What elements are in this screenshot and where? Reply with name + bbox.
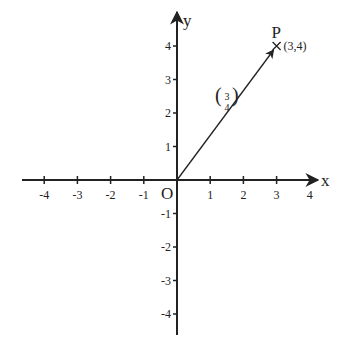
x-tick-label: -2	[106, 188, 116, 202]
vector-line	[177, 50, 274, 180]
x-tick-label: 4	[307, 188, 313, 202]
y-axis-label: y	[183, 11, 192, 30]
column-vector-label: (34)	[215, 84, 239, 113]
x-tick-label: -4	[39, 188, 49, 202]
x-tick-label: 1	[207, 188, 213, 202]
y-tick-label: -2	[161, 240, 171, 254]
x-axis-label: x	[321, 171, 330, 190]
point-p: P(3,4)	[272, 23, 307, 53]
y-tick-label: -3	[161, 274, 171, 288]
origin-label: O	[161, 184, 173, 203]
cross-marker-icon	[273, 42, 281, 50]
y-tick-label: -4	[161, 307, 171, 321]
point-name: P	[272, 23, 281, 42]
y-tick-label: 3	[165, 73, 171, 87]
y-tick-label: -1	[161, 207, 171, 221]
y-tick-label: 2	[165, 106, 171, 120]
point-coordinates: (3,4)	[284, 39, 307, 53]
x-tick-label: -3	[72, 188, 82, 202]
y-tick-label: 4	[165, 39, 171, 53]
vector-y-component: 4	[225, 102, 230, 113]
coordinate-plot: -4-3-2-11234 4321-1-2-3-4 x y O (34) P(3…	[0, 0, 351, 352]
right-paren: )	[232, 84, 239, 107]
x-tick-label: 3	[274, 188, 280, 202]
vector-op: (34)	[177, 50, 274, 180]
y-tick-label: 1	[165, 140, 171, 154]
vector-x-component: 3	[225, 91, 230, 102]
left-paren: (	[215, 84, 222, 107]
x-tick-label: 2	[240, 188, 246, 202]
x-tick-label: -1	[139, 188, 149, 202]
